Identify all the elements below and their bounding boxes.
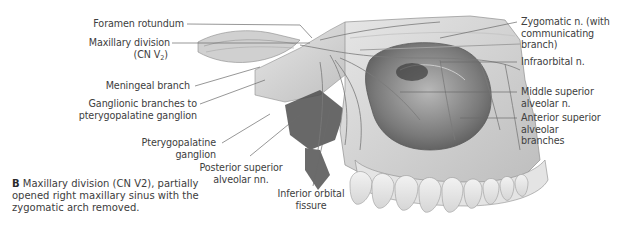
label-meningeal-branch: Meningeal branch	[60, 80, 190, 92]
label-line: Ganglionic branches to	[60, 98, 197, 110]
label-part: )	[164, 49, 168, 60]
label-line: communicating	[521, 28, 621, 40]
label-maxillary-division: Maxillary division (CN V2)	[64, 37, 170, 64]
label-text: Infraorbital n.	[521, 56, 585, 67]
label-line: Maxillary division	[64, 37, 170, 49]
label-line: Anterior superior	[521, 112, 621, 124]
caption-text: Maxillary division (CN V2), partially op…	[12, 178, 199, 213]
label-pterygopalatine-ganglion: Pterygopalatine ganglion	[120, 137, 216, 160]
label-line: pterygopalatine ganglion	[60, 110, 197, 122]
anatomy-figure: Foramen rotundum Maxillary division (CN …	[0, 0, 622, 226]
label-infraorbital-n: Infraorbital n.	[521, 56, 621, 68]
label-line: alveolar	[521, 124, 621, 136]
label-line: (CN V2)	[64, 49, 170, 65]
label-text: Foramen rotundum	[93, 18, 184, 29]
label-line: branch)	[521, 39, 621, 51]
label-line: Middle superior	[521, 86, 621, 98]
label-anterior-superior-alveolar: Anterior superior alveolar branches	[521, 112, 621, 147]
label-ganglionic-branches: Ganglionic branches to pterygopalatine g…	[60, 98, 197, 121]
label-inferior-orbital-fissure: Inferior orbital fissure	[270, 188, 352, 211]
label-line: Posterior superior	[196, 162, 286, 174]
label-text: Meningeal branch	[106, 80, 190, 91]
label-line: alveolar n.	[521, 98, 621, 110]
label-line: ganglion	[120, 149, 216, 161]
label-line: Inferior orbital	[270, 188, 352, 200]
label-line: fissure	[270, 200, 352, 212]
label-zygomatic-n: Zygomatic n. (with communicating branch)	[521, 16, 621, 51]
label-line: branches	[521, 135, 621, 147]
figure-caption: B Maxillary division (CN V2), partially …	[12, 178, 222, 214]
label-part: (CN V	[134, 49, 161, 60]
label-line: Zygomatic n. (with	[521, 16, 621, 28]
label-line: Pterygopalatine	[120, 137, 216, 149]
label-foramen-rotundum: Foramen rotundum	[92, 18, 184, 30]
caption-label: B	[12, 178, 20, 189]
label-middle-superior-alveolar: Middle superior alveolar n.	[521, 86, 621, 109]
